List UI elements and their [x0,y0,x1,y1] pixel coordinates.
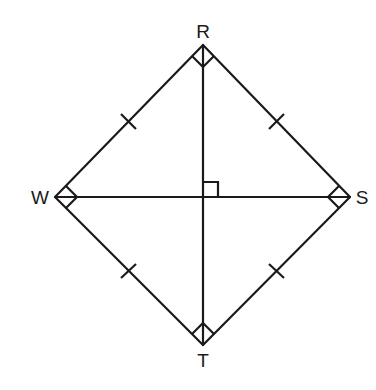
label-T: T [197,350,209,371]
label-S: S [356,187,369,208]
label-W: W [31,187,49,208]
diagonals [55,45,350,345]
square-diagram: R W S T [0,0,376,390]
right-angle-marker-center [203,182,218,197]
label-R: R [196,21,210,42]
